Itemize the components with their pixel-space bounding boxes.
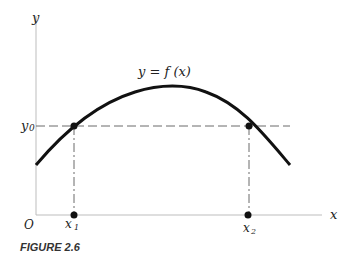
x2-label: x — [243, 221, 250, 235]
figure-canvas: y x O y 0 x 1 x 2 y = f (x) FIGURE 2.6 — [0, 0, 350, 261]
origin-label: O — [24, 218, 34, 232]
x2-subscript: 2 — [250, 227, 256, 236]
figure-caption: FIGURE 2.6 — [20, 241, 81, 253]
x2-point — [245, 212, 252, 219]
y0-subscript: 0 — [29, 123, 35, 133]
intersection-point-2 — [246, 123, 253, 130]
y-axis-label: y — [31, 10, 40, 25]
curve-label: y = f (x) — [137, 64, 191, 79]
x1-label: x — [65, 217, 72, 231]
intersection-point-1 — [71, 123, 78, 130]
y0-label: y — [20, 118, 29, 133]
x1-subscript: 1 — [74, 223, 79, 232]
x-axis-label: x — [330, 207, 338, 222]
